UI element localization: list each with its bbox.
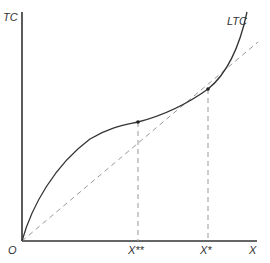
x-tick-x-double-star: X**: [128, 245, 144, 256]
x-axis-label: X: [249, 245, 256, 256]
point-x-double-star: [136, 120, 140, 124]
x-tick-x-star: X*: [200, 245, 212, 256]
chart-canvas: [0, 0, 270, 263]
ray-from-origin: [22, 42, 258, 241]
ltc-curve: [22, 12, 247, 241]
point-x-star: [206, 87, 210, 91]
curve-label-ltc: LTC: [227, 16, 247, 27]
y-axis-label: TC: [3, 12, 18, 23]
origin-label: O: [8, 245, 17, 256]
